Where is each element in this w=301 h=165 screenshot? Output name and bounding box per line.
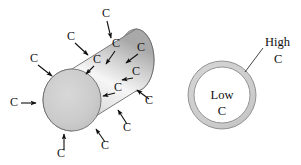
figure-canvas: CCCCCCCCCCCCC Low C High C xyxy=(0,0,301,165)
carbon-arrow-upper-left-1 xyxy=(75,43,88,55)
core-label-c: C xyxy=(218,104,226,118)
case-label-high: High xyxy=(265,35,291,49)
core-label-low: Low xyxy=(211,88,234,102)
carbon-label-surface-in-3: C xyxy=(132,64,140,78)
high-c-leader-line xyxy=(245,48,263,72)
carbon-label-left-mid: C xyxy=(10,95,18,109)
carbon-label-right-lower: C xyxy=(145,93,153,107)
carbon-label-surface-in-1: C xyxy=(112,36,120,50)
carbon-arrow-left-upper xyxy=(38,65,52,76)
case-label-c: C xyxy=(274,52,282,66)
carbon-label-surface-in-2: C xyxy=(93,52,101,66)
carbon-label-right-upper: C xyxy=(137,40,145,54)
carbon-label-left-upper: C xyxy=(30,51,38,65)
carbon-label-top-1: C xyxy=(102,6,110,20)
carbon-label-bottom-left: C xyxy=(57,146,65,160)
carburization-figure: CCCCCCCCCCCCC Low C High C xyxy=(0,0,301,165)
carbon-label-upper-left-1: C xyxy=(67,29,75,43)
carbon-label-lower-right-1: C xyxy=(123,120,131,134)
cylinder-front-face xyxy=(43,69,101,131)
carbon-label-bottom-right: C xyxy=(101,138,109,152)
carbon-label-surface-in-4: C xyxy=(114,80,122,94)
carbon-arrow-top-1 xyxy=(107,21,111,38)
